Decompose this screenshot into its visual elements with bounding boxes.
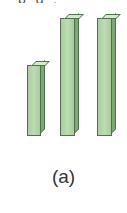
bar-front-face bbox=[60, 18, 75, 136]
bar-2 bbox=[60, 14, 79, 136]
bar-chart-plot-area bbox=[0, 0, 127, 150]
figure-caption: (a) bbox=[0, 166, 127, 188]
bar-top-face bbox=[31, 61, 50, 66]
bar-top-face bbox=[101, 14, 121, 19]
bar-3 bbox=[97, 14, 116, 136]
bar-top-face bbox=[64, 14, 84, 19]
bar-front-face bbox=[97, 18, 112, 136]
bar-front-face bbox=[27, 65, 41, 136]
bar-1 bbox=[27, 61, 45, 136]
